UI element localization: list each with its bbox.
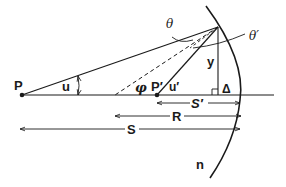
label-image-angle: u′ [169,80,179,94]
label-normal-angle: φ [135,80,147,95]
label-height: y [207,54,215,69]
label-object-distance: S [127,122,136,137]
label-object-point: P [14,78,23,93]
label-image-point: P′ [151,79,163,94]
incident-ray [22,27,218,95]
label-radius: R [172,109,182,124]
label-sag: Δ [222,82,231,96]
label-refractive-index: n [196,157,204,172]
label-refraction-angle: θ′ [249,29,259,43]
label-object-angle: u [62,79,70,94]
angle-u-arc [78,76,79,95]
object-point-dot [20,93,25,98]
right-angle-marker [212,89,218,95]
label-image-distance: S′ [191,96,204,111]
label-incidence-angle: θ [166,17,174,31]
optics-diagram: P u φ P′ u′ θ θ′ y Δ S′ R S n [0,0,286,187]
